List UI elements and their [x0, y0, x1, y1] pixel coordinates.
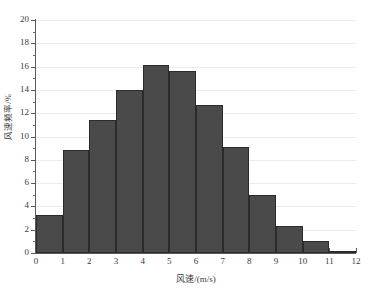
y-axis-tick-mark: [31, 20, 36, 21]
histogram-bar: [63, 150, 90, 253]
x-axis-tick-label: 3: [106, 256, 126, 266]
gridline: [36, 20, 356, 21]
x-axis-title: 风速/(m/s): [36, 272, 356, 285]
x-axis-line: [35, 253, 356, 254]
y-axis-tick-label: 14: [3, 85, 29, 94]
histogram-bar: [143, 65, 170, 253]
gridline: [36, 90, 356, 91]
y-axis-tick-mark: [31, 137, 36, 138]
x-axis-tick-label: 12: [346, 256, 366, 266]
gridline: [36, 67, 356, 68]
x-axis-tick-label: 11: [319, 256, 339, 266]
x-axis-tick-label: 4: [133, 256, 153, 266]
y-axis-tick-label: 8: [3, 155, 29, 164]
x-axis-tick-label: 2: [79, 256, 99, 266]
histogram-bar: [116, 90, 143, 253]
x-axis-tick-label: 1: [53, 256, 73, 266]
y-axis-minor-tick-mark: [33, 32, 36, 33]
histogram-bar: [36, 215, 63, 253]
y-axis-tick-mark: [31, 253, 36, 254]
y-axis-minor-tick-mark: [33, 195, 36, 196]
histogram-bar: [249, 195, 276, 253]
x-axis-tick-label: 5: [159, 256, 179, 266]
y-axis-minor-tick-mark: [33, 102, 36, 103]
histogram-bar: [329, 251, 356, 253]
x-axis-tick-label: 0: [26, 256, 46, 266]
histogram-bar: [223, 147, 250, 253]
y-axis-minor-tick-mark: [33, 78, 36, 79]
y-axis-tick-label: 12: [3, 108, 29, 117]
x-axis-tick-label: 8: [239, 256, 259, 266]
x-axis-tick-label: 10: [293, 256, 313, 266]
y-axis-tick-mark: [31, 90, 36, 91]
y-axis-tick-mark: [31, 183, 36, 184]
y-axis-tick-label: 16: [3, 62, 29, 71]
y-axis-tick-mark: [31, 113, 36, 114]
y-axis-tick-label: 18: [3, 38, 29, 47]
y-axis-minor-tick-mark: [33, 55, 36, 56]
y-axis-minor-tick-mark: [33, 148, 36, 149]
y-axis-tick-mark: [31, 67, 36, 68]
y-axis-tick-mark: [31, 206, 36, 207]
wind-speed-frequency-histogram: 风速频率/% 02468101214161820 012345678910111…: [0, 0, 369, 297]
y-axis-tick-label: 4: [3, 201, 29, 210]
x-axis-tick-label: 7: [213, 256, 233, 266]
gridline: [36, 43, 356, 44]
histogram-bar: [89, 120, 116, 253]
histogram-bar: [303, 241, 330, 253]
y-axis-tick-label: 10: [3, 132, 29, 141]
y-axis-minor-tick-mark: [33, 125, 36, 126]
x-axis-tick-mark: [356, 248, 357, 253]
y-axis-tick-mark: [31, 43, 36, 44]
histogram-bar: [196, 105, 223, 253]
y-axis-tick-label: 2: [3, 225, 29, 234]
x-axis-tick-label: 9: [266, 256, 286, 266]
y-axis-tick-label: 20: [3, 15, 29, 24]
histogram-bar: [276, 226, 303, 253]
y-axis-minor-tick-mark: [33, 171, 36, 172]
y-axis-tick-mark: [31, 160, 36, 161]
histogram-bar: [169, 71, 196, 253]
x-axis-tick-label: 6: [186, 256, 206, 266]
y-axis-tick-label: 6: [3, 178, 29, 187]
